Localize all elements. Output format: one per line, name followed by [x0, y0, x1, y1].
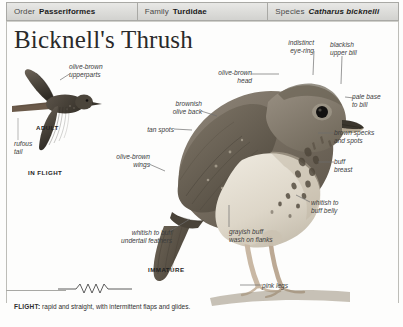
page-left-rule — [6, 21, 7, 303]
leader-grayish-buff-wash-on-flanks — [224, 205, 234, 229]
taxonomy-header: Order Passeriformes Family Turdidae Spec… — [6, 2, 399, 21]
label-tan-spots: tan spots — [134, 126, 174, 134]
flight-text: rapid and straight, with intermittent fl… — [40, 303, 190, 310]
page-right-rule — [398, 21, 399, 303]
label-blackish-upper-bill: blackish upper bill — [330, 41, 357, 57]
label-brownish-olive-back: brownish olive back — [155, 100, 202, 116]
label-buff-breast: buff breast — [334, 158, 352, 174]
leader-indistinct-eye-ring — [308, 51, 320, 77]
leader-blackish-upper-bill — [336, 56, 348, 86]
label-pale-base-to-bill: pale base to bill — [352, 93, 381, 109]
leader-buff-breast — [318, 159, 336, 165]
taxonomy-rank-species: Species — [275, 7, 304, 16]
taxonomy-cell-family: Family Turdidae — [138, 3, 269, 20]
leader-brown-specks-and-spots — [318, 130, 336, 136]
label-rufous-tail: rufous tail — [14, 140, 32, 156]
page-bottom-rule — [6, 290, 66, 291]
leader-whitish-to-buff-undertail — [170, 219, 192, 233]
taxonomy-rank-family: Family — [145, 7, 169, 16]
taxonomy-cell-species: Species Catharus bicknelli — [268, 3, 398, 20]
label-whitish-to-buff-belly: whitish to buff belly — [311, 199, 339, 215]
label-indistinct-eye-ring: indistinct eye-ring — [258, 39, 314, 55]
leader-whitish-to-buff-belly — [296, 194, 312, 204]
taxonomy-name-family: Turdidae — [173, 7, 207, 16]
taxonomy-name-order: Passeriformes — [39, 7, 95, 16]
leader-rufous-tail — [12, 118, 24, 142]
leader-brownish-olive-back — [201, 110, 219, 118]
leader-tan-spots — [174, 125, 194, 133]
label-immature: IMMATURE — [148, 266, 184, 273]
label-pink-legs: pink legs — [262, 282, 288, 290]
label-whitish-to-buff-undertail: whitish to buff undertail feathers — [100, 229, 172, 245]
label-adult: ADULT — [36, 124, 59, 131]
label-olive-brown-upperparts: olive-brown upperparts — [69, 63, 103, 79]
label-olive-brown-head: olive-brown head — [200, 69, 252, 85]
leader-pale-base-to-bill — [344, 96, 356, 104]
taxonomy-rank-order: Order — [14, 7, 35, 16]
field-guide-page: Order Passeriformes Family Turdidae Spec… — [0, 0, 403, 327]
flight-path-diagram-icon — [58, 281, 132, 295]
leader-olive-brown-wings — [149, 163, 167, 173]
taxonomy-cell-order: Order Passeriformes — [7, 3, 138, 20]
flight-label: FLIGHT: — [14, 303, 40, 310]
flight-description: FLIGHT: rapid and straight, with intermi… — [14, 302, 229, 311]
label-olive-brown-wings: olive-brown wings — [100, 153, 150, 169]
label-brown-specks-and-spots: brown specks and spots — [334, 129, 374, 145]
label-grayish-buff-wash-on-flanks: grayish buff wash on flanks — [229, 228, 273, 244]
label-in-flight: IN FLIGHT — [28, 169, 62, 176]
header-underline — [6, 21, 399, 22]
leader-pink-legs — [240, 282, 264, 290]
leader-olive-brown-head — [251, 71, 281, 77]
taxonomy-name-species: Catharus bicknelli — [309, 7, 380, 16]
leader-olive-brown-upperparts — [58, 72, 72, 82]
